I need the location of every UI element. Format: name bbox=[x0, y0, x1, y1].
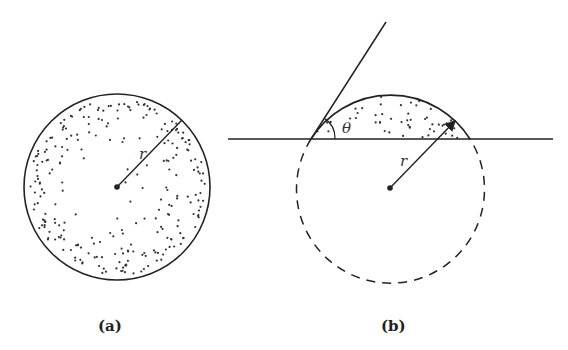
figure-canvas: r θ r (a) (b) bbox=[0, 0, 568, 350]
radius-label-a: r bbox=[139, 145, 147, 163]
radius-line-a bbox=[117, 120, 182, 187]
dashed-sphere-arc bbox=[297, 139, 485, 283]
panel-label-a: (a) bbox=[98, 317, 122, 335]
panel-label-b: (b) bbox=[381, 317, 406, 335]
radius-label-b: r bbox=[400, 152, 408, 170]
center-dot-b bbox=[387, 185, 393, 191]
panel-a: r bbox=[24, 94, 210, 280]
panel-b: θ r bbox=[228, 22, 553, 283]
center-dot-a bbox=[114, 184, 120, 190]
stipple-cap bbox=[314, 95, 468, 139]
angle-label-theta: θ bbox=[342, 119, 351, 137]
